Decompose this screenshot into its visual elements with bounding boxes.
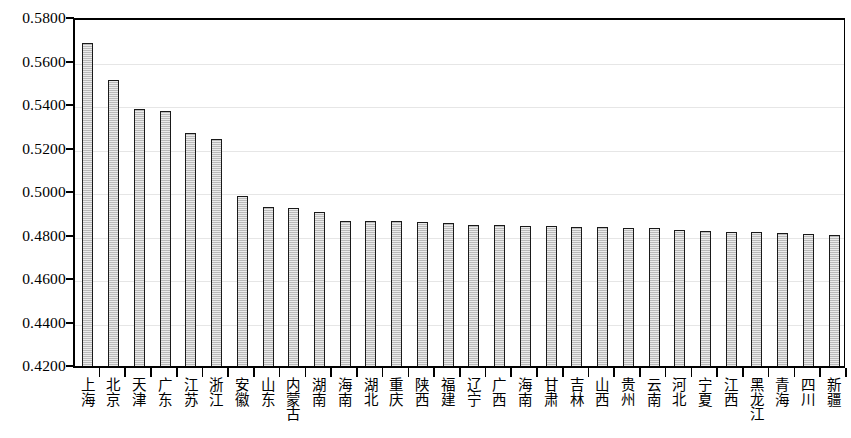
x-axis-tick-mark — [742, 368, 744, 377]
bars-layer — [75, 20, 844, 367]
x-axis-tick-mark — [408, 368, 410, 377]
x-axis-tick-mark — [819, 368, 821, 377]
x-axis-category-label: 海南 — [516, 377, 531, 438]
x-axis-category-label: 内蒙古 — [284, 377, 299, 438]
bar — [237, 196, 248, 367]
x-axis-category-label: 云南 — [645, 377, 660, 438]
x-axis-tick-mark — [536, 368, 538, 377]
x-axis-tick-mark — [459, 368, 461, 377]
x-axis-category-label: 江苏 — [182, 377, 197, 438]
x-axis-category-label: 广东 — [156, 377, 171, 438]
y-axis-tick-label: 0.4200 — [4, 358, 66, 374]
x-axis-category-label: 甘肃 — [542, 377, 557, 438]
x-axis-tick-mark — [768, 368, 770, 377]
plot-inner — [75, 20, 844, 367]
bar — [417, 222, 428, 367]
bar — [726, 232, 737, 367]
bar — [649, 228, 660, 367]
bar — [571, 227, 582, 367]
bar — [263, 207, 274, 367]
x-axis-tick-mark — [150, 368, 152, 377]
x-axis-tick-mark — [356, 368, 358, 377]
x-axis-category-label: 北京 — [104, 377, 119, 438]
x-axis-tick-mark — [639, 368, 641, 377]
x-axis-tick-mark — [845, 368, 847, 377]
bar — [546, 226, 557, 367]
x-axis-tick-mark — [382, 368, 384, 377]
bar — [829, 235, 840, 367]
x-axis-tick-mark — [433, 368, 435, 377]
x-axis-category-label: 四川 — [799, 377, 814, 438]
y-axis-tick-label: 0.4600 — [4, 271, 66, 287]
x-axis-tick-mark — [665, 368, 667, 377]
y-axis-tick-mark — [66, 148, 74, 150]
x-axis-tick-mark — [613, 368, 615, 377]
y-axis-tick-mark — [66, 17, 74, 19]
x-axis-tick-mark — [202, 368, 204, 377]
y-axis-tick-mark — [66, 191, 74, 193]
x-axis-tick-mark — [279, 368, 281, 377]
x-axis-tick-mark — [485, 368, 487, 377]
x-axis-tick-mark — [716, 368, 718, 377]
bar — [314, 212, 325, 368]
x-axis-category-label: 辽宁 — [465, 377, 480, 438]
bar — [211, 139, 222, 367]
x-axis-category-label: 山东 — [259, 377, 274, 438]
bar — [751, 232, 762, 367]
y-axis-tick-label: 0.5400 — [4, 97, 66, 113]
x-axis-tick-mark — [794, 368, 796, 377]
bar — [185, 133, 196, 367]
bar — [623, 228, 634, 367]
x-axis-category-label: 天津 — [130, 377, 145, 438]
bar — [443, 223, 454, 367]
bar — [160, 111, 171, 367]
x-axis-category-label: 山西 — [593, 377, 608, 438]
x-axis-category-label: 江西 — [722, 377, 737, 438]
bar — [520, 226, 531, 367]
x-axis-category-label: 重庆 — [387, 377, 402, 438]
bar — [468, 225, 479, 367]
bar — [391, 221, 402, 367]
bar — [494, 225, 505, 367]
y-axis-tick-label: 0.5200 — [4, 141, 66, 157]
x-axis-category-label: 青海 — [773, 377, 788, 438]
x-axis-category-label: 福建 — [439, 377, 454, 438]
bar — [82, 43, 93, 367]
bar — [288, 208, 299, 367]
x-axis-category-label: 宁夏 — [696, 377, 711, 438]
x-axis-tick-mark — [691, 368, 693, 377]
bar — [803, 234, 814, 367]
y-axis-tick-label: 0.5800 — [4, 10, 66, 26]
x-axis-tick-mark — [510, 368, 512, 377]
x-axis-category-labels: 上海北京天津广东江苏浙江安徽山东内蒙古湖南海南湖北重庆陕西福建辽宁广西海南甘肃吉… — [73, 377, 845, 438]
x-axis-category-label: 广西 — [490, 377, 505, 438]
x-axis-tick-mark — [588, 368, 590, 377]
x-axis-category-label: 贵州 — [619, 377, 634, 438]
plot-area — [73, 18, 845, 367]
y-axis-line — [73, 18, 75, 368]
x-axis-tick-mark — [253, 368, 255, 377]
bar — [674, 230, 685, 367]
x-axis-category-label: 湖北 — [362, 377, 377, 438]
bar — [365, 221, 376, 367]
y-axis-tick-labels: 0.58000.56000.54000.52000.50000.48000.46… — [0, 0, 66, 438]
bar — [134, 109, 145, 367]
bar — [597, 227, 608, 367]
y-axis-tick-mark — [66, 235, 74, 237]
x-axis-category-label: 湖南 — [310, 377, 325, 438]
x-axis-tick-mark — [330, 368, 332, 377]
x-axis-category-label: 浙江 — [207, 377, 222, 438]
bar — [777, 233, 788, 367]
y-axis-tick-mark — [66, 61, 74, 63]
x-axis-tick-mark — [99, 368, 101, 377]
x-axis-category-label: 河北 — [670, 377, 685, 438]
x-axis-tick-mark — [227, 368, 229, 377]
x-axis-category-label: 新疆 — [825, 377, 840, 438]
x-axis-tick-mark — [124, 368, 126, 377]
y-axis-tick-label: 0.5600 — [4, 54, 66, 70]
x-axis-tick-mark — [562, 368, 564, 377]
x-axis-category-label: 黑龙江 — [748, 377, 763, 438]
x-axis-category-label: 安徽 — [233, 377, 248, 438]
y-axis-tick-mark — [66, 365, 74, 367]
x-axis-category-label: 海南 — [336, 377, 351, 438]
